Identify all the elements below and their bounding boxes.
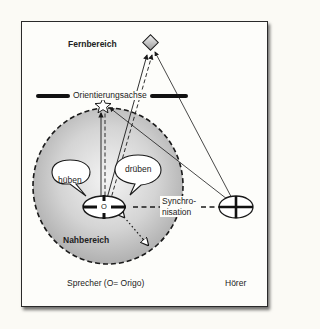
bubble-drueben-text: drüben bbox=[125, 165, 151, 174]
speaker-label: Sprecher (O= Origo) bbox=[67, 279, 144, 288]
near-zone-label: Nahbereich bbox=[63, 236, 109, 245]
synchronisation-label-line1: Synchro- bbox=[162, 197, 196, 206]
synchronisation-label-line2: nisation bbox=[162, 208, 196, 217]
origo-mark: O bbox=[101, 203, 107, 211]
bubble-hueben-text: hüben bbox=[58, 176, 82, 185]
far-zone-label: Fernbereich bbox=[68, 40, 117, 49]
orientation-axis-label: Orientierungsachse bbox=[71, 91, 149, 100]
listener-label: Hörer bbox=[225, 279, 246, 288]
far-target-diamond-icon bbox=[143, 35, 159, 51]
listener-icon bbox=[219, 196, 253, 218]
synchronisation-label: Synchro- nisation bbox=[160, 196, 198, 217]
